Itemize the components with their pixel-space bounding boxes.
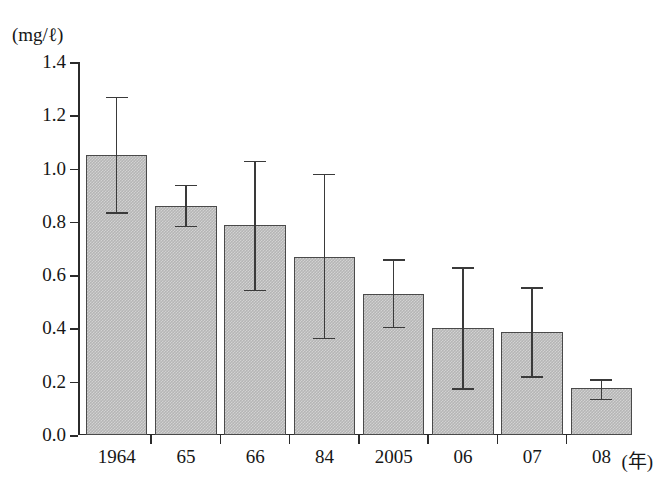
error-bar-cap-lower xyxy=(590,399,612,401)
error-bar-line xyxy=(393,259,395,328)
y-axis-unit-label: (mg/ℓ) xyxy=(12,24,63,46)
error-bar-line xyxy=(254,161,256,292)
x-tick-mark xyxy=(566,435,568,444)
error-bar-cap-lower xyxy=(521,376,543,378)
plot-area: 0.00.20.40.60.81.01.21.4 xyxy=(78,62,632,435)
y-tick-label: 1.4 xyxy=(42,51,66,73)
x-tick-label: 66 xyxy=(246,446,265,468)
error-bar-cap-upper xyxy=(175,185,197,187)
y-tick-mark xyxy=(70,382,78,384)
error-bar-cap-upper xyxy=(313,174,335,176)
y-axis-line xyxy=(78,62,80,435)
y-tick-label: 0.4 xyxy=(42,317,66,339)
error-bar-cap-lower xyxy=(106,212,128,214)
x-tick-label: 06 xyxy=(453,446,472,468)
error-bar-cap-lower xyxy=(452,388,474,390)
x-axis-unit-label: (年) xyxy=(621,446,653,473)
bar xyxy=(155,206,216,435)
x-tick-mark xyxy=(358,435,360,444)
y-tick-label: 1.2 xyxy=(42,104,66,126)
y-tick-label: 1.0 xyxy=(42,158,66,180)
y-tick-mark xyxy=(70,435,78,437)
y-tick-label: 0.6 xyxy=(42,264,66,286)
y-tick-mark xyxy=(70,222,78,224)
error-bar-cap-upper xyxy=(383,259,405,261)
x-tick-label: 65 xyxy=(176,446,195,468)
error-bar-line xyxy=(185,185,187,228)
error-bar-line xyxy=(601,379,603,400)
error-bar-cap-lower xyxy=(313,338,335,340)
error-bar-line xyxy=(116,97,118,214)
y-tick-mark xyxy=(70,115,78,117)
y-tick-mark xyxy=(70,169,78,171)
error-bar-cap-lower xyxy=(175,226,197,228)
x-tick-label: 1964 xyxy=(98,446,136,468)
error-bar-line xyxy=(324,174,326,339)
y-tick-mark xyxy=(70,62,78,64)
x-tick-label: 07 xyxy=(523,446,542,468)
error-bar-cap-upper xyxy=(521,287,543,289)
x-tick-label: 08 xyxy=(592,446,611,468)
error-bar-cap-upper xyxy=(244,161,266,163)
x-tick-label: 84 xyxy=(315,446,334,468)
y-tick-mark xyxy=(70,275,78,277)
error-bar-cap-lower xyxy=(244,290,266,292)
y-tick-mark xyxy=(70,328,78,330)
error-bar-cap-upper xyxy=(452,267,474,269)
x-tick-mark xyxy=(150,435,152,444)
y-tick-label: 0.8 xyxy=(42,211,66,233)
error-bar-line xyxy=(531,287,533,378)
x-tick-mark xyxy=(289,435,291,444)
y-tick-label: 0.0 xyxy=(42,424,66,446)
x-tick-mark xyxy=(427,435,429,444)
error-bar-cap-lower xyxy=(383,327,405,329)
x-tick-mark xyxy=(497,435,499,444)
x-tick-mark xyxy=(220,435,222,444)
error-bar-line xyxy=(462,267,464,390)
y-tick-label: 0.2 xyxy=(42,371,66,393)
error-bar-cap-upper xyxy=(590,379,612,381)
x-tick-label: 2005 xyxy=(375,446,413,468)
error-bar-cap-upper xyxy=(106,97,128,99)
chart-figure: (mg/ℓ) 0.00.20.40.60.81.01.21.4 19646566… xyxy=(0,0,668,493)
